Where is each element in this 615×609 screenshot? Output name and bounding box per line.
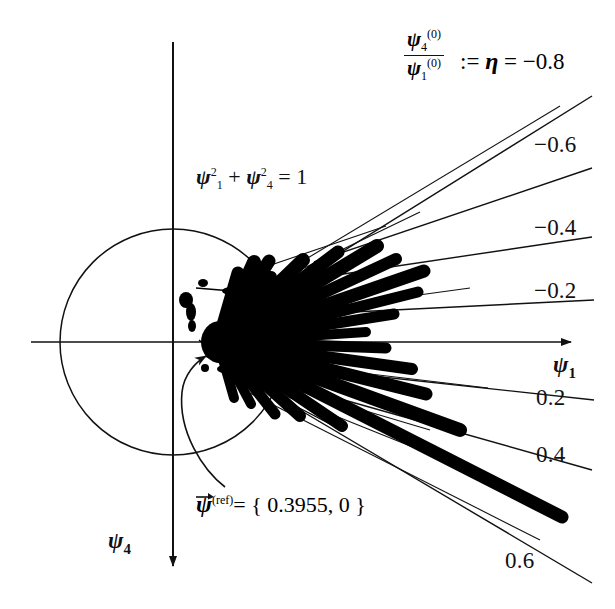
unit-circle-equation: ψ21 + ψ24 = 1 (196, 164, 307, 193)
ray-label-neg04: −0.4 (534, 215, 577, 241)
ref-superscript: (ref) (212, 493, 233, 507)
eta-denominator: ψ1(0) (404, 57, 444, 83)
eta-numerator: ψ4(0) (404, 28, 444, 54)
ray-label-pos06: 0.6 (505, 548, 534, 574)
eta-assign: := (460, 49, 479, 74)
ray-label-pos04: 0.4 (536, 442, 565, 468)
eta-symbol: η (485, 48, 498, 74)
ray-label-neg02: −0.2 (534, 278, 577, 304)
vector-arrow-accent: ψ (196, 491, 212, 518)
phase-portrait-figure: ψ4(0) ψ1(0) := η = −0.8 ψ21 + ψ24 = 1 −0… (0, 0, 615, 609)
ref-equals: = (233, 492, 245, 517)
eta-equals: = (504, 49, 517, 74)
ray-label-neg06: −0.6 (534, 132, 577, 158)
reference-vector-annotation: ψ (ref)= { 0.3955, 0 } (196, 491, 366, 518)
eta-value-row: := η = −0.8 (460, 48, 565, 75)
psi4-axis-label: ψ4 (108, 528, 131, 558)
ray-label-pos02: 0.2 (536, 385, 565, 411)
ref-value: { 0.3955, 0 } (251, 492, 366, 517)
vector-arrow-icon (196, 491, 215, 500)
eta-fraction: ψ4(0) ψ1(0) (404, 28, 444, 83)
reference-leader-curve (182, 356, 225, 487)
eta-value: −0.8 (523, 49, 565, 74)
psi1-axis-label: ψ1 (553, 352, 576, 382)
